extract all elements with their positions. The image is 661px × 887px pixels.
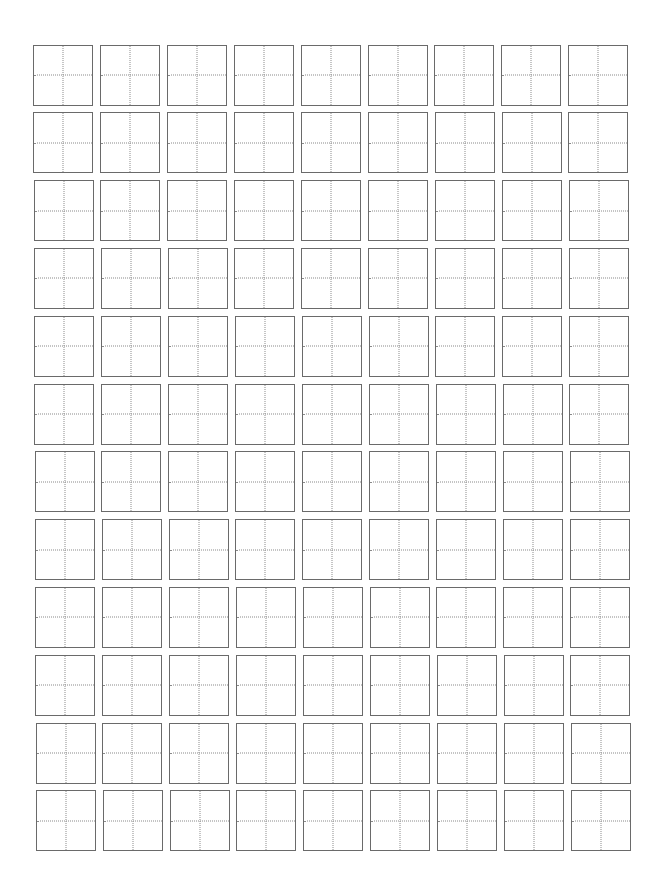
writing-cell [436,384,496,445]
writing-cell [301,180,361,241]
writing-cell [437,790,497,851]
writing-cell [504,655,564,716]
horizontal-guide-line [435,75,493,76]
horizontal-guide-line [437,549,495,550]
horizontal-guide-line [369,75,427,76]
horizontal-guide-line [35,278,93,279]
horizontal-guide-line [438,820,496,821]
horizontal-guide-line [572,820,630,821]
writing-cell [435,248,495,309]
writing-cell [303,723,363,784]
writing-practice-sheet [0,0,661,887]
horizontal-guide-line [169,278,227,279]
horizontal-guide-line [437,414,495,415]
horizontal-guide-line [369,142,427,143]
writing-cell [502,112,562,173]
writing-cell [168,248,228,309]
writing-cell [503,451,563,512]
horizontal-guide-line [302,75,360,76]
horizontal-guide-line [170,549,228,550]
horizontal-guide-line [102,278,160,279]
horizontal-guide-line [36,685,94,686]
writing-cell [169,655,229,716]
writing-cell [101,248,161,309]
horizontal-guide-line [503,210,561,211]
horizontal-guide-line [503,142,561,143]
horizontal-guide-line [303,481,361,482]
horizontal-guide-line [235,210,293,211]
horizontal-guide-line [103,685,161,686]
writing-cell [167,45,227,106]
writing-cell [302,519,362,580]
writing-cell [101,384,161,445]
writing-cell [436,519,496,580]
horizontal-guide-line [571,481,629,482]
writing-cell [236,790,296,851]
writing-cell [570,519,630,580]
horizontal-guide-line [436,210,494,211]
horizontal-guide-line [304,753,362,754]
writing-cell [235,384,295,445]
writing-cell [168,384,228,445]
writing-cell [435,180,495,241]
writing-cell [368,180,428,241]
horizontal-guide-line [102,414,160,415]
writing-cell [569,248,629,309]
writing-cell [434,45,494,106]
horizontal-guide-line [304,820,362,821]
horizontal-guide-line [103,549,161,550]
horizontal-guide-line [169,346,227,347]
horizontal-guide-line [370,481,428,482]
horizontal-guide-line [570,278,628,279]
horizontal-guide-line [370,346,428,347]
writing-cell [503,384,563,445]
horizontal-guide-line [303,549,361,550]
horizontal-guide-line [505,685,563,686]
writing-cell [504,723,564,784]
horizontal-guide-line [571,549,629,550]
writing-cell [569,180,629,241]
horizontal-guide-line [371,617,429,618]
horizontal-guide-line [572,753,630,754]
writing-cell [100,45,160,106]
writing-cell [570,655,630,716]
horizontal-guide-line [569,75,627,76]
horizontal-guide-line [503,278,561,279]
writing-cell [169,519,229,580]
writing-cell [235,316,295,377]
writing-cell [437,655,497,716]
horizontal-guide-line [103,617,161,618]
writing-cell [100,180,160,241]
writing-cell [302,384,362,445]
writing-cell [234,248,294,309]
horizontal-guide-line [236,549,294,550]
writing-cell [436,451,496,512]
horizontal-guide-line [35,346,93,347]
horizontal-guide-line [235,278,293,279]
horizontal-guide-line [504,414,562,415]
horizontal-guide-line [170,753,228,754]
horizontal-guide-line [436,278,494,279]
writing-cell [34,384,94,445]
writing-cell [569,384,629,445]
writing-cell [303,587,363,648]
writing-cell [503,519,563,580]
horizontal-guide-line [236,481,294,482]
horizontal-guide-line [502,75,560,76]
horizontal-guide-line [102,481,160,482]
writing-cell [369,519,429,580]
horizontal-guide-line [101,75,159,76]
writing-cell [369,384,429,445]
horizontal-guide-line [505,820,563,821]
writing-cell [235,451,295,512]
horizontal-guide-line [236,414,294,415]
horizontal-guide-line [37,820,95,821]
writing-cell [437,723,497,784]
writing-cell [167,180,227,241]
writing-cell [101,451,161,512]
horizontal-guide-line [438,685,496,686]
writing-cell [236,723,296,784]
writing-cell [102,587,162,648]
horizontal-guide-line [371,685,429,686]
horizontal-guide-line [571,617,629,618]
